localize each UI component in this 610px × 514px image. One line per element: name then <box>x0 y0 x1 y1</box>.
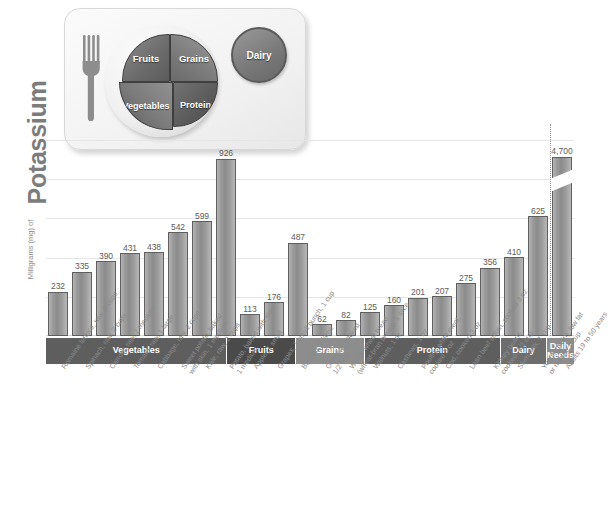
bar-slot: 335 <box>70 140 94 336</box>
bar-slot: 356 <box>478 140 502 336</box>
plate-segment-protein-label: Protein <box>180 100 211 110</box>
bar-value-label: 438 <box>147 242 161 252</box>
bar-value-label: 356 <box>483 257 497 267</box>
bar-value-label: 431 <box>123 243 137 253</box>
bar-slot: 599 <box>190 140 214 336</box>
bar-value-label: 207 <box>435 286 449 296</box>
bar-value-label: 176 <box>267 292 281 302</box>
bar-value-label: 275 <box>459 273 473 283</box>
x-axis-tick-labels: Romaine lettuce, raw, 2 cupsSpinach, raw… <box>46 364 574 514</box>
bar-slot: 926 <box>214 140 238 336</box>
bar-value-label: 4,700 <box>551 146 572 156</box>
bar-value-label: 201 <box>411 287 425 297</box>
bar-value-label: 390 <box>99 251 113 261</box>
bar-slot: 82 <box>334 140 358 336</box>
bar-7[interactable]: 926 <box>216 159 236 336</box>
bar-series: 2323353904314385425999261131764876282125… <box>46 140 574 336</box>
bar-slot: 232 <box>46 140 70 336</box>
bar-slot: 207 <box>430 140 454 336</box>
myplate-illustration: Fruits Grains Vegetables Protein Dairy <box>64 8 306 150</box>
plate-segment-grains-label: Grains <box>179 53 209 64</box>
plate-segment-vegetables-label: Vegetables <box>122 101 169 111</box>
chart-plot-area: 2323353904314385425999261131764876282125… <box>46 140 574 336</box>
bar-value-label: 125 <box>363 302 377 312</box>
bar-value-label: 625 <box>531 206 545 216</box>
plate-segment-grains: Grains <box>170 34 218 82</box>
bar-slot: 487 <box>286 140 310 336</box>
bar-slot: 125 <box>358 140 382 336</box>
bar-slot: 113 <box>238 140 262 336</box>
plate-segment-dairy: Dairy <box>231 27 287 83</box>
y-axis-title-units: Milligrams (mg) of <box>26 190 35 310</box>
bar-slot: 4,700 <box>550 140 574 336</box>
plate-segment-protein: Protein <box>173 82 218 127</box>
bar-value-label: 926 <box>219 148 233 158</box>
y-axis-title: Potassium Milligrams (mg) of <box>0 0 46 350</box>
bar-0[interactable]: 232 <box>48 292 68 336</box>
bar-value-label: 335 <box>75 261 89 271</box>
bar-20[interactable]: 625 <box>528 216 548 336</box>
bar-value-label: 113 <box>243 304 257 314</box>
bar-value-label: 410 <box>507 247 521 257</box>
bar-21[interactable]: 4,700 <box>552 157 572 336</box>
plate-segment-dairy-label: Dairy <box>246 50 271 61</box>
bar-value-label: 82 <box>341 310 350 320</box>
bar-slot: 542 <box>166 140 190 336</box>
plate-segment-fruits-label: Fruits <box>133 53 159 64</box>
bar-value-label: 599 <box>195 211 209 221</box>
bar-value-label: 232 <box>51 281 65 291</box>
bar-slot: 431 <box>118 140 142 336</box>
bar-slot: 275 <box>454 140 478 336</box>
fork-icon <box>82 35 101 121</box>
bar-slot: 625 <box>526 140 550 336</box>
bar-value-label: 542 <box>171 222 185 232</box>
bar-value-label: 487 <box>291 232 305 242</box>
daily-needs-divider <box>550 124 551 336</box>
